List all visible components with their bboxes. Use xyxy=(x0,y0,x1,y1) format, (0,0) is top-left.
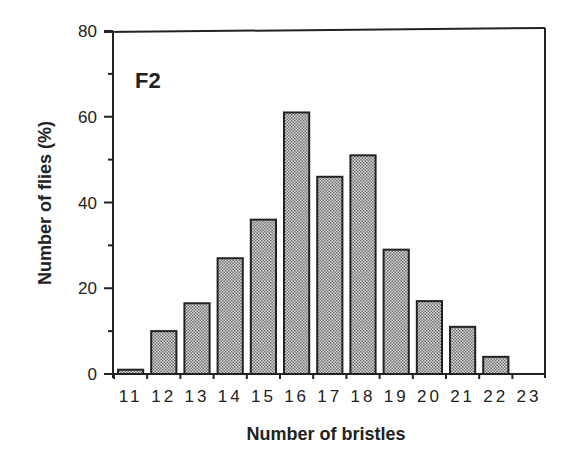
bar-20 xyxy=(417,301,442,374)
x-tick-label: 20 xyxy=(417,387,442,406)
bar-chart: 020406080 11121314151617181920212223 F2 … xyxy=(0,0,575,455)
bar-22 xyxy=(483,357,508,374)
panel-label: F2 xyxy=(135,68,161,93)
x-tick-label: 14 xyxy=(218,387,243,406)
bar-19 xyxy=(384,250,409,374)
bar-17 xyxy=(317,177,342,374)
bar-18 xyxy=(350,155,375,374)
x-tick-label: 21 xyxy=(450,387,475,406)
y-tick-label: 60 xyxy=(78,108,97,127)
x-tick-label: 23 xyxy=(517,387,542,406)
bar-11 xyxy=(118,370,143,374)
x-tick-label: 18 xyxy=(351,387,376,406)
x-tick-label: 22 xyxy=(483,387,508,406)
x-axis-title: Number of bristles xyxy=(246,424,405,444)
y-tick-label: 20 xyxy=(78,279,97,298)
x-tick-label: 13 xyxy=(185,387,210,406)
bar-21 xyxy=(450,327,475,374)
y-tick-label: 40 xyxy=(78,194,97,213)
x-tick-label: 11 xyxy=(119,387,143,406)
y-axis-title: Number of flies (%) xyxy=(35,121,55,285)
y-tick-label: 0 xyxy=(88,365,97,384)
bar-13 xyxy=(184,303,209,374)
y-axis: 020406080 xyxy=(78,22,113,384)
x-axis: 11121314151617181920212223 xyxy=(114,374,541,406)
y-tick-label: 80 xyxy=(78,22,97,41)
bar-14 xyxy=(218,258,243,374)
x-tick-label: 15 xyxy=(251,387,276,406)
bar-16 xyxy=(284,112,309,374)
x-tick-label: 16 xyxy=(284,387,309,406)
x-tick-label: 12 xyxy=(151,387,176,406)
bars xyxy=(118,112,508,374)
bar-15 xyxy=(251,220,276,374)
x-tick-label: 19 xyxy=(384,387,409,406)
x-tick-label: 17 xyxy=(317,387,342,406)
bar-12 xyxy=(151,331,176,374)
